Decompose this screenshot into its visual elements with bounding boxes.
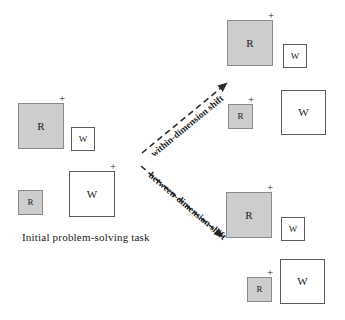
initial-small-r-letter: R [27, 198, 33, 207]
between-large-w-square: W [280, 259, 325, 304]
within-large-r-letter: R [246, 38, 253, 49]
within-small-w-square: W [283, 44, 307, 68]
initial-small-r-square: R [18, 190, 43, 215]
within-dimension-shift-arrow [142, 83, 227, 153]
initial-small-w-letter: W [79, 135, 88, 144]
within-small-r-letter: R [237, 112, 243, 121]
between-small-r-square: R [247, 277, 272, 302]
dimensional-shift-diagram: R+WRW+R+WR+WR+WR+W within-dimension shif… [0, 0, 345, 320]
within-small-w-letter: W [291, 52, 300, 61]
initial-large-r-plus-icon: + [59, 93, 65, 104]
between-large-r-letter: R [245, 210, 252, 221]
initial-task-caption: Initial problem-solving task [22, 231, 150, 243]
between-small-w-letter: W [289, 225, 298, 234]
within-small-r-square: R [228, 104, 253, 129]
within-large-w-letter: W [298, 107, 308, 118]
initial-large-r-letter: R [37, 121, 44, 132]
between-small-w-square: W [281, 217, 305, 241]
initial-large-w-square: W [69, 171, 115, 217]
initial-small-w-square: W [71, 127, 95, 151]
initial-large-r-square: R [18, 103, 64, 149]
between-small-r-letter: R [256, 285, 262, 294]
initial-large-w-plus-icon: + [110, 161, 116, 172]
within-large-r-square: R [227, 20, 273, 66]
between-large-r-square: R [226, 192, 272, 238]
between-large-w-letter: W [297, 276, 307, 287]
within-large-w-square: W [281, 90, 326, 135]
within-large-r-plus-icon: + [268, 10, 274, 21]
within-small-r-plus-icon: + [248, 94, 254, 105]
initial-large-w-letter: W [87, 189, 97, 200]
between-small-r-plus-icon: + [267, 267, 273, 278]
between-large-r-plus-icon: + [267, 182, 273, 193]
